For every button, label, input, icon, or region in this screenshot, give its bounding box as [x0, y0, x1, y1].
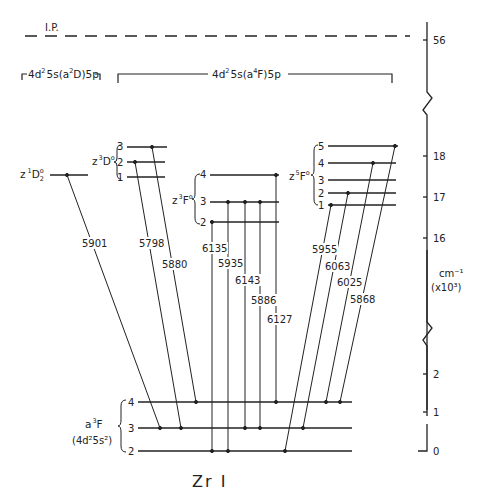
axis-tick-1: 1 — [433, 407, 439, 418]
config-bracket-left: 4d25s(a2D)5p — [22, 67, 100, 80]
svg-text:1: 1 — [318, 200, 324, 211]
transition-label: 5868 — [350, 294, 375, 305]
transition-label: 5880 — [162, 259, 187, 270]
transition-label: 6127 — [267, 314, 292, 325]
svg-text:2: 2 — [128, 446, 134, 457]
axis-tick-16: 16 — [433, 233, 446, 244]
svg-text:2: 2 — [200, 217, 206, 228]
svg-text:4: 4 — [128, 397, 134, 408]
transition-label: 5955 — [312, 244, 337, 255]
transition-label: 5935 — [218, 258, 243, 269]
term-z5F: z5Fo 5 4 3 2 1 — [289, 141, 398, 211]
transition-lines — [65, 144, 396, 452]
axis-unit-scale: (x10³) — [431, 282, 462, 293]
transition-label: 5798 — [139, 238, 164, 249]
svg-text:2: 2 — [318, 188, 324, 199]
svg-text:3: 3 — [117, 141, 123, 152]
axis-unit: cm⁻¹ — [439, 268, 464, 279]
axis-tick-2: 2 — [433, 369, 439, 380]
axis-tick-18: 18 — [433, 151, 446, 162]
transition-label: 5901 — [82, 238, 107, 249]
svg-text:z1Do2: z1Do2 — [20, 167, 44, 183]
svg-text:4d25s(a2D)5p: 4d25s(a2D)5p — [28, 67, 99, 80]
svg-text:a3F: a3F — [85, 417, 103, 430]
svg-text:4d25s(a4F)5p: 4d25s(a4F)5p — [212, 67, 281, 80]
transition-label: 6025 — [337, 277, 362, 288]
term-z3D: z3Do 3 2 1 — [92, 141, 167, 183]
svg-text:3: 3 — [128, 423, 134, 434]
ionization-label: I.P. — [45, 22, 59, 33]
svg-text:z3Do: z3Do — [92, 154, 115, 167]
axis-tick-0: 0 — [433, 446, 439, 457]
energy-axis — [418, 22, 432, 451]
term-z3F: z3Fo 4 3 2 — [172, 169, 279, 228]
svg-text:2: 2 — [117, 157, 123, 168]
svg-text:z5Fo: z5Fo — [289, 169, 310, 182]
config-bracket-right: 4d25s(a4F)5p — [118, 67, 392, 83]
svg-text:4: 4 — [200, 169, 206, 180]
diagram-title: Zr I — [192, 472, 227, 491]
transition-label: 6135 — [202, 243, 227, 254]
transition-label: 5886 — [251, 295, 276, 306]
term-z1D2: z1Do2 — [20, 167, 88, 183]
energy-level-diagram: I.P. 4d25s(a2D)5p 4d25s(a4F)5p z1Do2 z3D… — [0, 0, 477, 491]
axis-tick-17: 17 — [433, 192, 446, 203]
svg-text:z3Fo: z3Fo — [172, 193, 193, 206]
transition-label: 6143 — [235, 275, 260, 286]
svg-text:(4d²5s²): (4d²5s²) — [72, 435, 112, 446]
svg-text:1: 1 — [117, 172, 123, 183]
svg-text:3: 3 — [318, 175, 324, 186]
svg-text:5: 5 — [318, 141, 324, 152]
axis-tick-56: 56 — [433, 35, 446, 46]
transition-label: 6063 — [325, 261, 350, 272]
svg-text:3: 3 — [200, 196, 206, 207]
svg-text:4: 4 — [318, 158, 324, 169]
